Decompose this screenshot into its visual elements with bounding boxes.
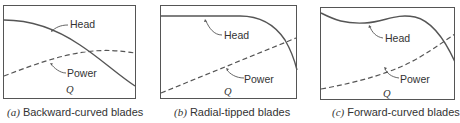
panel-b-frame [161,6,297,99]
panel-a-q-label: Q [66,84,74,95]
panel-c-head-leader [370,27,383,38]
panel-b-radial-tipped: Head Power Q [161,6,298,99]
panel-b-caption: (b) Radial-tipped blades [174,106,290,118]
panel-b-caption-letter: (b) [174,106,187,118]
panel-b-head-curve [161,16,297,70]
panel-a-head-label: Head [70,18,95,30]
panel-c-caption: (c) Forward-curved blades [332,106,460,118]
panel-c-head-label: Head [385,32,410,44]
fan-characteristics-figure: Head Power Q Head Power Q Head Power Q [0,0,455,100]
panel-a-caption-letter: (a) [7,106,20,118]
panel-c-caption-text: Forward-curved blades [344,106,460,118]
panel-c-power-label: Power [400,73,430,85]
panel-a-power-leader [51,64,66,73]
panel-b-q-label: Q [224,86,232,97]
panel-c-caption-letter: (c) [332,106,344,118]
panel-b-power-leader [227,70,244,78]
panel-a-backward-curved: Head Power Q [4,6,136,99]
panel-a-caption: (a) Backward-curved blades [7,106,143,118]
panel-b-power-curve [161,38,296,93]
panel-c-q-label: Q [383,88,391,99]
panel-a-caption-text: Backward-curved blades [20,106,144,118]
panel-a-power-label: Power [67,67,97,79]
panel-b-head-label: Head [224,29,249,41]
panel-c-forward-curved: Head Power Q [321,8,456,100]
panel-b-power-label: Power [244,73,274,85]
panel-b-head-leader [206,21,222,35]
panel-b-caption-text: Radial-tipped blades [187,106,290,118]
